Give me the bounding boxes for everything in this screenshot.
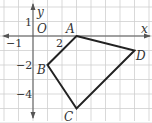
vertex-label-B: B — [36, 63, 46, 77]
origin-label: O — [37, 22, 47, 36]
x-axis-label: x — [141, 22, 148, 36]
coordinate-figure: y x O −1 2 1 −2 −4 A D C B — [0, 0, 152, 123]
vertex-label-D: D — [135, 49, 146, 63]
tick-y-neg2: −2 — [16, 59, 32, 72]
tick-x-2: 2 — [56, 37, 63, 50]
vertex-label-A: A — [65, 22, 75, 36]
tick-y-neg4: −4 — [16, 88, 32, 101]
tick-y-1: 1 — [25, 16, 32, 29]
vertex-label-C: C — [64, 110, 73, 123]
y-axis-label: y — [36, 5, 44, 19]
tick-x-neg1: −1 — [6, 37, 22, 50]
